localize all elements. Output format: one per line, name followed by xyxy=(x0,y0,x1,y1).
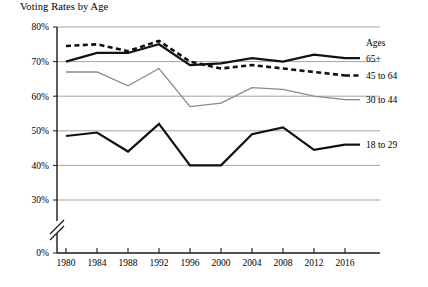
y-axis-tick-label: 80% xyxy=(32,22,50,32)
x-axis-tick-label: 2016 xyxy=(336,258,355,268)
y-axis-tick-label: 50% xyxy=(32,126,50,136)
x-axis-tick-label: 1984 xyxy=(88,258,107,268)
y-axis-tick-label: 40% xyxy=(32,161,50,171)
x-axis-tick-label: 2008 xyxy=(274,258,293,268)
x-axis-tick-label: 1996 xyxy=(181,258,200,268)
y-axis-tick-label: 30% xyxy=(32,195,50,205)
x-axis-tick-labels: 1980198419881992199620002004200820122016 xyxy=(57,258,355,268)
x-axis-tick-label: 1992 xyxy=(150,258,169,268)
series-lines xyxy=(66,41,345,166)
legend-label-65-: 65+ xyxy=(366,54,381,64)
y-axis-tick-label: 60% xyxy=(32,92,50,102)
chart-container: Voting Rates by Age 0%30%40%50%60%70%80%… xyxy=(0,0,428,287)
y-axis-tick-label: 70% xyxy=(32,57,50,67)
x-axis-tick-label: 1980 xyxy=(57,258,76,268)
legend-label-18-to-29: 18 to 29 xyxy=(366,140,397,150)
x-axis-ticks xyxy=(66,248,345,253)
x-axis-tick-label: 1988 xyxy=(119,258,138,268)
legend-label-30-to-44: 30 to 44 xyxy=(366,95,397,105)
y-axis-tick-labels: 0%30%40%50%60%70%80% xyxy=(32,22,50,258)
x-axis-tick-label: 2000 xyxy=(212,258,231,268)
legend: Ages65+45 to 6430 to 4418 to 29 xyxy=(345,38,397,150)
x-axis-tick-label: 2004 xyxy=(243,258,262,268)
series-line-18-to-29 xyxy=(66,124,345,166)
series-line-30-to-44 xyxy=(66,69,345,107)
x-axis-tick-label: 2012 xyxy=(305,258,324,268)
y-axis-tick-label: 0% xyxy=(36,248,49,258)
legend-label-45-to-64: 45 to 64 xyxy=(366,71,397,81)
voting-rates-line-chart: 0%30%40%50%60%70%80% 1980198419881992199… xyxy=(0,0,428,287)
legend-title: Ages xyxy=(366,38,386,48)
